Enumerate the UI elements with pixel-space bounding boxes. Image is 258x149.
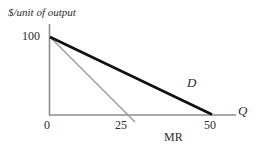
x-axis-tick-label-25: 25 [115,119,127,131]
y-axis-tick-label-100: 100 [22,30,40,42]
monopoly-demand-mr-chart: $/unit of output 100 0 25 50 Q D MR [0,0,258,149]
marginal-revenue-curve-label: MR [164,131,183,143]
y-axis-title: $/unit of output [8,7,76,18]
x-axis-title: Q [238,104,247,117]
x-axis-tick-label-0: 0 [44,119,50,131]
chart-plot-area [0,0,258,149]
marginal-revenue-line [50,37,135,122]
demand-curve-label: D [187,76,196,89]
x-axis-tick-label-50: 50 [204,119,216,131]
